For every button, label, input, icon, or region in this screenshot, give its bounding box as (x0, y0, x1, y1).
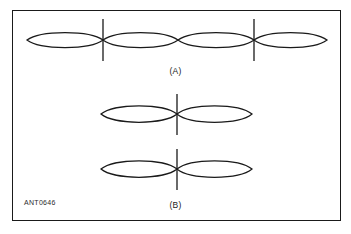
panel-b-lower-lobe-left (101, 161, 177, 178)
panel-a-lobe-4 (254, 33, 327, 48)
figure-id-code: ANT0646 (24, 199, 56, 206)
panel-a-lobe-group (27, 33, 327, 48)
panel-a-lobe-3 (178, 33, 254, 48)
panel-b-lower-lobe-right (177, 161, 252, 178)
panel-a-lobe-2 (103, 33, 178, 48)
panel-a-lobe-1 (27, 33, 103, 48)
figure-plate: (A) (B) ANT0646 (0, 0, 351, 234)
panel-a-label: (A) (0, 66, 351, 76)
panel-b-upper-lobe-left (101, 106, 177, 123)
panel-b-upper-lobe-right (177, 106, 252, 123)
